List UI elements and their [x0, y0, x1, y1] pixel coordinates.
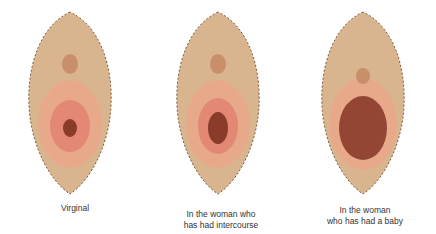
- label-line: In the woman: [290, 205, 436, 216]
- label-virginal: Virginal: [0, 203, 150, 214]
- illustration-after-intercourse: [163, 6, 273, 198]
- illustration-after-childbirth: [308, 6, 418, 198]
- label-line: In the woman who: [146, 209, 296, 220]
- label-after-intercourse: In the woman who has had intercourse: [146, 209, 296, 231]
- label-line: Virginal: [0, 203, 150, 214]
- label-after-childbirth: In the woman who has had a baby: [290, 205, 436, 227]
- illustration-virginal: [15, 6, 125, 198]
- label-line: has had intercourse: [146, 220, 296, 231]
- label-line: who has had a baby: [290, 216, 436, 227]
